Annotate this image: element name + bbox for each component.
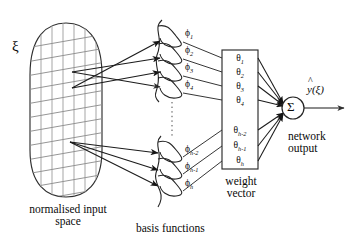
weight-label-theta-h: θh: [223, 155, 257, 168]
phi-subscript: h: [190, 183, 193, 190]
theta-subscript: 3: [241, 86, 244, 93]
weight-to-sum-connectors: [258, 58, 283, 161]
figure-canvas: ξ ϕ1 ϕ2 ϕ3 ϕ4 ϕh-2 ϕh-1 ϕh θ1 θ2 θ3 θ4 θ…: [0, 0, 350, 250]
theta-subscript: h-2: [238, 130, 246, 137]
caption-basis-functions: basis functions: [136, 222, 240, 234]
caption-line-1: normalised input: [6, 203, 130, 215]
caption-line-2: output: [288, 142, 346, 154]
phi-subscript: 3: [190, 67, 193, 74]
phi-subscript: 2: [190, 50, 193, 57]
weight-label-theta-h-1: θh-1: [223, 140, 257, 153]
weight-label-theta-1: θ1: [223, 53, 257, 66]
phi-subscript: h-2: [190, 149, 198, 156]
caption-normalised-input-space: normalised input space: [6, 203, 130, 228]
caption-network-output: network output: [288, 130, 346, 155]
input-symbol-label: ξ: [12, 38, 19, 54]
caption-line-1: network: [288, 130, 346, 142]
phi-subscript: h-1: [190, 166, 198, 173]
weight-label-theta-h-2: θh-2: [223, 125, 257, 138]
hat-accent-icon: ^: [308, 76, 313, 87]
basis-function-curves-bottom: [155, 136, 181, 207]
theta-subscript: 1: [241, 58, 244, 65]
weight-label-theta-3: θ3: [223, 81, 257, 94]
phi-subscript: 4: [190, 84, 193, 91]
summation-symbol: Σ: [287, 100, 295, 114]
theta-subscript: h: [241, 160, 244, 167]
basis-function-label-phi-3: ϕ3: [185, 62, 193, 75]
basis-function-label-phi-2: ϕ2: [185, 45, 193, 58]
theta-subscript: h-1: [238, 145, 246, 152]
theta-subscript: 2: [241, 72, 244, 79]
caption-weight-vector: weight vector: [212, 175, 270, 200]
basis-function-label-phi-h-2: ϕh-2: [185, 144, 198, 157]
network-output-expression: ^ y(ξ): [307, 84, 324, 96]
output-argument: (ξ): [312, 83, 324, 95]
basis-function-curves-top: [155, 20, 181, 102]
weight-label-theta-4: θ4: [223, 95, 257, 108]
caption-line-2: vector: [212, 187, 270, 199]
weight-label-theta-2: θ2: [223, 67, 257, 80]
basis-function-label-phi-h: ϕh: [185, 178, 193, 191]
basis-function-label-phi-h-1: ϕh-1: [185, 161, 198, 174]
basis-function-label-phi-1: ϕ1: [185, 28, 193, 41]
caption-line-2: space: [6, 215, 130, 227]
theta-subscript: 4: [241, 100, 244, 107]
caption-line-1: weight: [212, 175, 270, 187]
basis-function-label-phi-4: ϕ4: [185, 79, 193, 92]
phi-subscript: 1: [190, 33, 193, 40]
